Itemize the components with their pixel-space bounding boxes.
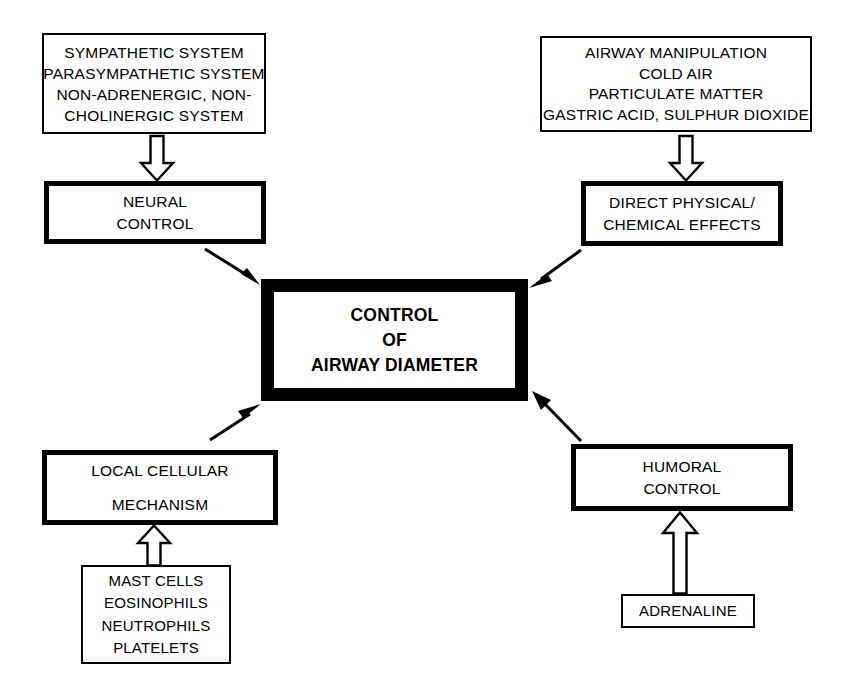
node-adrenaline: ADRENALINE: [621, 594, 755, 628]
block-arrow-down-to-direct-effects: [668, 135, 704, 182]
node-line: PLATELETS: [113, 637, 199, 660]
node-line: AIRWAY DIAMETER: [311, 353, 478, 378]
node-line: CONTROL: [116, 213, 193, 235]
node-line: CONTROL: [351, 303, 439, 328]
diagram-canvas: SYMPATHETIC SYSTEM PARASYMPATHETIC SYSTE…: [0, 0, 846, 689]
node-line: CHEMICAL EFFECTS: [603, 214, 761, 236]
node-line: NEURAL: [123, 191, 187, 213]
node-line: LOCAL CELLULAR: [91, 454, 228, 488]
node-line: NEUTROPHILS: [102, 615, 211, 638]
line-arrow-humoral-control-to-central: [527, 387, 587, 447]
node-inflammatory-cells: MAST CELLS EOSINOPHILS NEUTROPHILS PLATE…: [81, 565, 231, 664]
block-arrow-up-to-humoral-control: [661, 511, 699, 595]
line-arrow-direct-effects-to-central: [526, 244, 586, 292]
node-line: MECHANISM: [112, 488, 209, 522]
node-line: ADRENALINE: [639, 602, 737, 620]
node-line: CONTROL: [643, 478, 720, 500]
node-local-cellular-mechanism: LOCAL CELLULAR MECHANISM: [42, 450, 278, 525]
node-line: HUMORAL: [643, 456, 722, 478]
node-line: COLD AIR: [639, 64, 713, 85]
node-control-of-airway-diameter: CONTROL OF AIRWAY DIAMETER: [261, 279, 528, 401]
node-line: MAST CELLS: [108, 570, 203, 593]
node-line: SYMPATHETIC SYSTEM: [64, 42, 244, 63]
node-line: GASTRIC ACID, SULPHUR DIOXIDE: [543, 105, 809, 126]
node-line: NON-ADRENERGIC, NON-: [56, 84, 251, 105]
block-arrow-down-to-neural-control: [139, 135, 175, 182]
node-humoral-control: HUMORAL CONTROL: [571, 444, 793, 511]
node-sympathetic-systems: SYMPATHETIC SYSTEM PARASYMPATHETIC SYSTE…: [42, 33, 266, 134]
node-neural-control: NEURAL CONTROL: [44, 181, 266, 244]
node-line: EOSINOPHILS: [104, 592, 208, 615]
node-line: OF: [382, 328, 407, 353]
node-direct-physical-chemical-effects: DIRECT PHYSICAL/ CHEMICAL EFFECTS: [581, 181, 783, 246]
block-arrow-up-to-local-cellular: [136, 524, 172, 567]
node-line: AIRWAY MANIPULATION: [585, 43, 767, 64]
line-arrow-local-cellular-to-central: [205, 400, 265, 446]
node-line: DIRECT PHYSICAL/: [609, 192, 755, 214]
node-line: PARTICULATE MATTER: [589, 84, 764, 105]
node-line: CHOLINERGIC SYSTEM: [64, 105, 243, 126]
node-line: PARASYMPATHETIC SYSTEM: [43, 63, 264, 84]
node-physical-chemical-stimuli: AIRWAY MANIPULATION COLD AIR PARTICULATE…: [540, 36, 812, 132]
line-arrow-neural-control-to-central: [200, 244, 266, 290]
